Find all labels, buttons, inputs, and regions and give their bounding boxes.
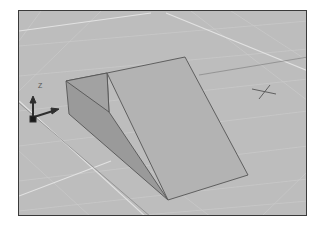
crosshair-cursor xyxy=(252,85,276,99)
wedge-solid xyxy=(66,57,248,200)
3d-viewport[interactable]: Z xyxy=(18,10,307,216)
viewport-canvas xyxy=(19,11,307,216)
wedge-slope-face xyxy=(107,57,248,200)
x-axis-line xyxy=(199,57,307,75)
ucs-z-label: Z xyxy=(38,82,42,89)
